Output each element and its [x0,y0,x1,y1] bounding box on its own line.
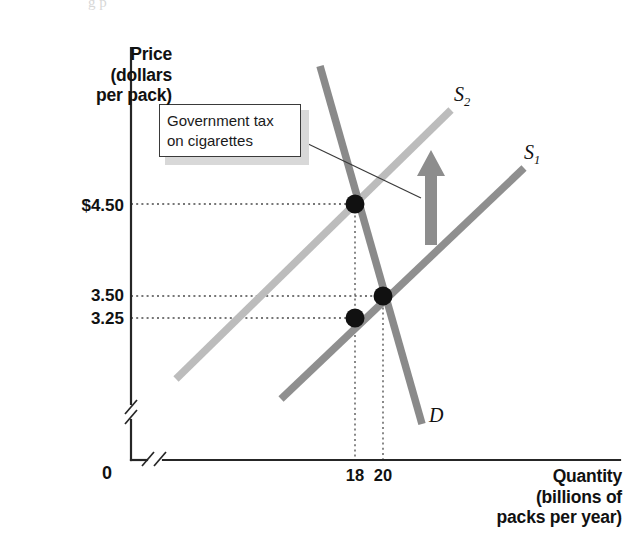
x-axis-title-line-1: Quantity [553,466,622,486]
x-axis-title-line-2: (billions of [536,487,622,507]
curve-label-s1-subscript: 1 [534,153,540,167]
callout-leader-line [302,141,421,198]
point-before-tax-20-350 [374,287,393,306]
point-after-tax-18-450 [346,195,365,214]
curve-d-demand [320,66,422,424]
callout-text: Government taxon cigarettes [167,111,297,151]
cigarette-tax-figure: g p [0,0,634,556]
curve-label-s1: S1 [524,141,540,168]
origin-label: 0 [92,463,122,484]
y-tick-label-325: 3.25 [36,309,124,329]
guide-lines [131,204,384,459]
curve-label-s2: S2 [454,83,470,110]
y-axis-title-line-1: Price [130,44,172,64]
x-axis-title-line-3: packs per year) [497,507,622,527]
point-seller-net-18-325 [346,309,365,328]
callout-line-2: on cigarettes [167,132,253,149]
x-tick-label-20: 20 [366,466,400,485]
curve-label-s2-subscript: 2 [464,95,470,109]
x-axis-title: Quantity(billions ofpacks per year) [410,466,622,528]
y-tick-label-450: $4.50 [36,196,124,216]
callout-line-1: Government tax [167,112,274,129]
y-axis-title: Price(dollarsper pack) [56,44,172,106]
y-axis-title-line-3: per pack) [96,85,172,105]
y-tick-label-350: 3.50 [36,286,124,306]
curve-label-s2-base: S [454,83,464,105]
y-axis-title-line-2: (dollars [110,65,172,85]
curve-label-d: D [429,404,443,428]
curve-label-s1-base: S [524,141,534,163]
